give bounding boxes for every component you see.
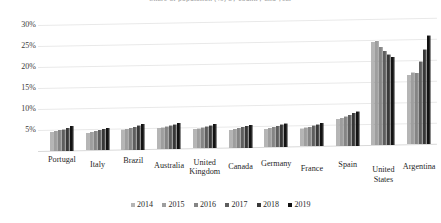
x-axis-label-argentina: Argentina	[398, 162, 440, 172]
y-axis-tick-label: 5%	[2, 126, 36, 134]
bar-group	[86, 24, 110, 150]
bar[interactable]	[427, 35, 431, 144]
x-axis-category-labels: PortugalItalyBrazilAustraliaUnited Kingd…	[0, 152, 441, 192]
bar[interactable]	[249, 125, 253, 148]
bar-face	[427, 35, 431, 144]
bar-group	[371, 19, 395, 145]
bar-top-face	[106, 127, 110, 129]
bar-face	[70, 126, 74, 151]
bar-group	[50, 25, 74, 151]
bar-top-face	[70, 125, 74, 127]
legend-swatch-icon	[162, 203, 166, 207]
bar[interactable]	[356, 111, 360, 145]
bar-top-face	[284, 122, 288, 124]
bar-group	[193, 22, 217, 148]
bar-top-face	[387, 53, 391, 55]
bar-face	[141, 124, 145, 150]
legend-label: 2014	[137, 200, 153, 209]
bar-face	[213, 124, 217, 148]
legend-item[interactable]: 2016	[194, 200, 217, 209]
bar[interactable]	[320, 123, 324, 147]
bar-group	[264, 21, 288, 147]
bar-top-face	[379, 46, 383, 48]
legend-item[interactable]: 2014	[131, 200, 154, 209]
legend-item[interactable]: 2015	[162, 200, 185, 209]
bar-face	[391, 57, 395, 145]
legend-swatch-icon	[257, 203, 261, 207]
bar-face	[177, 123, 181, 149]
bar-face	[356, 111, 360, 145]
y-axis-tick-label: 30%	[2, 21, 36, 29]
legend-swatch-icon	[225, 203, 229, 207]
bar-group	[407, 18, 431, 144]
legend-item[interactable]: 2019	[288, 200, 311, 209]
bar-top-face	[375, 40, 379, 42]
bar-top-face	[356, 110, 360, 112]
bar-face	[284, 123, 288, 147]
bar-top-face	[383, 50, 387, 52]
legend-label: 2016	[200, 200, 216, 209]
chart-legend: 201420152016201720182019	[0, 200, 441, 209]
bar-face	[106, 128, 110, 151]
legend-swatch-icon	[131, 203, 135, 207]
legend-item[interactable]: 2018	[257, 200, 280, 209]
y-axis-tick-label: 15%	[2, 84, 36, 92]
bar[interactable]	[141, 124, 145, 150]
bar-group	[157, 23, 181, 149]
legend-swatch-icon	[194, 203, 198, 207]
chart-title: Share of population (%) by country and y…	[0, 0, 441, 2]
bar-group	[121, 24, 145, 150]
bar-chart: Share of population (%) by country and y…	[0, 0, 441, 223]
legend-label: 2015	[169, 200, 185, 209]
legend-label: 2018	[263, 200, 279, 209]
y-axis-tick-label: 10%	[2, 105, 36, 113]
bar-top-face	[391, 56, 395, 58]
bar-group	[229, 22, 253, 148]
bar[interactable]	[177, 123, 181, 149]
bar[interactable]	[284, 123, 288, 147]
bar-top-face	[249, 124, 253, 126]
bar-face	[320, 123, 324, 147]
bar[interactable]	[213, 124, 217, 148]
bar-top-face	[427, 34, 431, 36]
bar-top-face	[177, 122, 181, 124]
legend-label: 2017	[232, 200, 248, 209]
bar-top-face	[141, 123, 145, 125]
bar-top-face	[213, 123, 217, 125]
bar[interactable]	[106, 128, 110, 151]
bar-top-face	[320, 122, 324, 124]
legend-label: 2019	[295, 200, 311, 209]
bar-face	[249, 125, 253, 148]
bar-group	[300, 20, 324, 146]
y-axis-tick-label: 20%	[2, 63, 36, 71]
bar[interactable]	[70, 126, 74, 151]
bar[interactable]	[391, 57, 395, 145]
legend-swatch-icon	[288, 203, 292, 207]
y-axis-tick-label: 25%	[2, 42, 36, 50]
bar-group	[336, 20, 360, 146]
legend-item[interactable]: 2017	[225, 200, 248, 209]
